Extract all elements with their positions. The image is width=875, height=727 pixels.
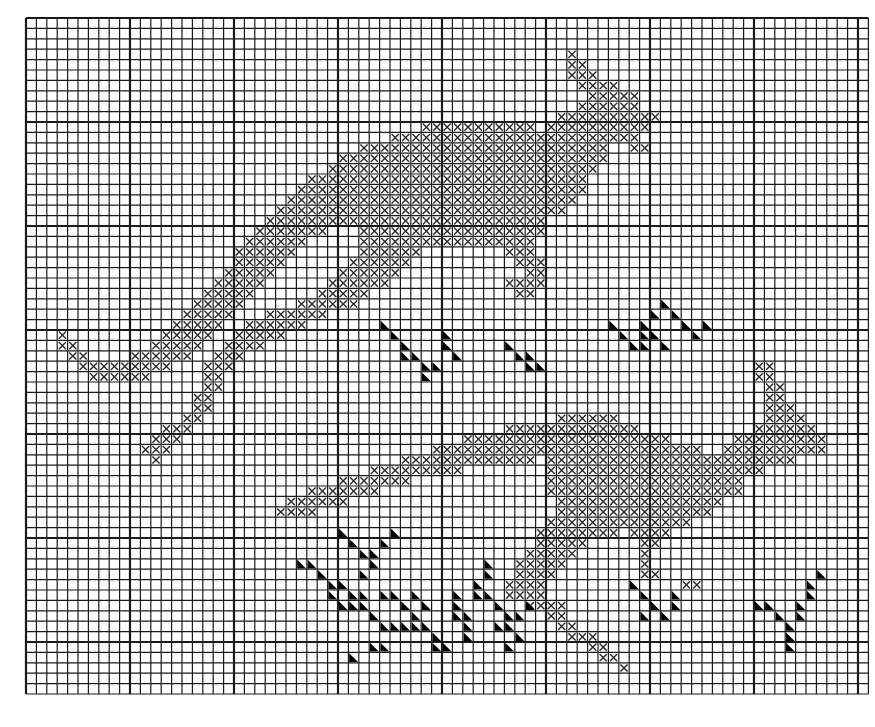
cross-stitch [704, 477, 711, 484]
cross-stitch [184, 342, 191, 349]
cross-stitch [152, 352, 159, 359]
cross-stitch [69, 342, 76, 349]
triangle-mark [640, 612, 649, 621]
cross-stitch [184, 415, 191, 422]
cross-stitch [516, 581, 523, 588]
cross-stitch [371, 207, 378, 214]
cross-stitch [496, 155, 503, 162]
cross-stitch [100, 363, 107, 370]
cross-stitch [496, 217, 503, 224]
cross-stitch [163, 342, 170, 349]
cross-stitch [225, 300, 232, 307]
triangle-mark [432, 362, 441, 371]
triangle-mark [328, 580, 337, 589]
cross-stitch [714, 498, 721, 505]
cross-stitch [454, 144, 461, 151]
cross-stitch [516, 134, 523, 141]
triangle-mark [464, 612, 473, 621]
cross-stitch [402, 477, 409, 484]
cross-stitch [215, 311, 222, 318]
triangle-mark [796, 601, 805, 610]
cross-stitch [600, 415, 607, 422]
cross-stitch [568, 540, 575, 547]
triangle-mark [672, 591, 681, 600]
triangle-mark [422, 622, 431, 631]
cross-stitch [225, 269, 232, 276]
cross-stitch [652, 540, 659, 547]
cross-stitch [600, 92, 607, 99]
cross-stitch [527, 207, 534, 214]
cross-stitch [516, 186, 523, 193]
cross-stitch [412, 217, 419, 224]
cross-stitch [444, 446, 451, 453]
cross-stitch [610, 498, 617, 505]
cross-stitch [766, 436, 773, 443]
cross-stitch [589, 467, 596, 474]
cross-stitch [579, 477, 586, 484]
cross-stitch [90, 363, 97, 370]
cross-stitch [340, 207, 347, 214]
cross-stitch [298, 228, 305, 235]
cross-stitch [631, 446, 638, 453]
cross-stitch [381, 259, 388, 266]
cross-stitch [797, 415, 804, 422]
cross-stitch [402, 176, 409, 183]
cross-stitch [527, 228, 534, 235]
cross-stitch [204, 394, 211, 401]
cross-stitch [558, 612, 565, 619]
cross-stitch [766, 394, 773, 401]
cross-stitch [173, 352, 180, 359]
cross-stitch [412, 456, 419, 463]
cross-stitch [350, 269, 357, 276]
cross-stitch [163, 425, 170, 432]
cross-stitch [579, 176, 586, 183]
cross-stitch [683, 519, 690, 526]
cross-stitch [371, 217, 378, 224]
cross-stitch [319, 207, 326, 214]
cross-stitch [350, 196, 357, 203]
triangle-mark [495, 622, 504, 631]
cross-stitch [516, 238, 523, 245]
cross-stitch [735, 467, 742, 474]
cross-stitch [163, 446, 170, 453]
cross-stitch [402, 207, 409, 214]
cross-stitch [516, 228, 523, 235]
cross-stitch [672, 477, 679, 484]
cross-stitch [558, 550, 565, 557]
cross-stitch [776, 456, 783, 463]
triangle-mark [505, 643, 514, 652]
cross-stitch [360, 248, 367, 255]
cross-stitch [340, 498, 347, 505]
triangle-mark [651, 601, 660, 610]
cross-stitch [527, 248, 534, 255]
cross-stitch [568, 508, 575, 515]
cross-stitch [464, 238, 471, 245]
cross-stitch [620, 103, 627, 110]
cross-stitch [225, 363, 232, 370]
cross-stitch [776, 425, 783, 432]
cross-stitch [485, 134, 492, 141]
cross-stitch [589, 134, 596, 141]
cross-stitch [423, 144, 430, 151]
cross-stitch [236, 290, 243, 297]
cross-stitch [766, 373, 773, 380]
cross-stitch [600, 425, 607, 432]
cross-stitch [610, 456, 617, 463]
cross-stitch [319, 217, 326, 224]
cross-stitch [184, 311, 191, 318]
cross-stitch [756, 363, 763, 370]
triangle-mark [380, 622, 389, 631]
cross-stitch [194, 342, 201, 349]
cross-stitch [225, 352, 232, 359]
cross-stitch [756, 436, 763, 443]
cross-stitch [423, 196, 430, 203]
cross-stitch [371, 144, 378, 151]
cross-stitch [610, 415, 617, 422]
cross-stitch [672, 498, 679, 505]
cross-stitch [548, 560, 555, 567]
cross-stitch [683, 488, 690, 495]
cross-stitch [579, 186, 586, 193]
cross-stitch [412, 134, 419, 141]
cross-stitch [548, 425, 555, 432]
cross-stitch [392, 196, 399, 203]
